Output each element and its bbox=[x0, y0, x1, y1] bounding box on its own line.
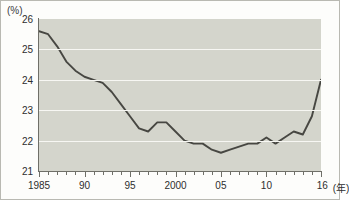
x-tick-label: 05 bbox=[215, 180, 226, 191]
x-tick-1994 bbox=[121, 172, 122, 175]
data-series-svg bbox=[39, 19, 321, 171]
gridline-22 bbox=[39, 141, 321, 142]
x-tick-1985 bbox=[39, 172, 40, 177]
x-tick-1992 bbox=[103, 172, 104, 175]
y-tick-label: 25 bbox=[22, 44, 33, 55]
x-tick-label: 16 bbox=[317, 180, 328, 191]
x-tick-2005 bbox=[221, 172, 222, 177]
x-tick-2002 bbox=[194, 172, 195, 175]
y-axis: 262524232221 bbox=[1, 19, 39, 171]
y-tick-label: 26 bbox=[22, 14, 33, 25]
x-tick-2000 bbox=[176, 172, 177, 177]
x-tick-label: 2000 bbox=[164, 180, 186, 191]
y-tick-label: 22 bbox=[22, 135, 33, 146]
x-tick-label: 90 bbox=[79, 180, 90, 191]
x-axis-unit-label: (年) bbox=[333, 180, 349, 195]
x-tick-2010 bbox=[266, 172, 267, 177]
x-tick-1998 bbox=[157, 172, 158, 175]
x-tick-2008 bbox=[248, 172, 249, 175]
x-tick-label: 95 bbox=[124, 180, 135, 191]
y-axis-line bbox=[38, 18, 39, 172]
gridline-25 bbox=[39, 49, 321, 50]
x-axis-labels: 198590952000051016(年) bbox=[1, 180, 341, 196]
x-tick-1996 bbox=[139, 172, 140, 175]
x-tick-2015 bbox=[312, 172, 313, 175]
x-tick-1988 bbox=[66, 172, 67, 175]
x-tick-1993 bbox=[112, 172, 113, 175]
x-tick-1997 bbox=[148, 172, 149, 175]
x-tick-label: 1985 bbox=[28, 180, 50, 191]
x-tick-2004 bbox=[212, 172, 213, 175]
x-tick-label: 10 bbox=[261, 180, 272, 191]
gridline-23 bbox=[39, 110, 321, 111]
x-tick-1990 bbox=[85, 172, 86, 177]
gridline-24 bbox=[39, 80, 321, 81]
x-axis-ticks bbox=[1, 172, 341, 180]
y-tick-label: 24 bbox=[22, 74, 33, 85]
x-tick-2013 bbox=[294, 172, 295, 175]
plot-area bbox=[39, 19, 321, 171]
x-tick-2003 bbox=[203, 172, 204, 175]
x-tick-1995 bbox=[130, 172, 131, 177]
y-tick-label: 23 bbox=[22, 105, 33, 116]
x-tick-2006 bbox=[230, 172, 231, 175]
x-tick-2007 bbox=[239, 172, 240, 175]
x-tick-1987 bbox=[57, 172, 58, 175]
x-tick-2012 bbox=[285, 172, 286, 175]
x-tick-1986 bbox=[48, 172, 49, 175]
x-tick-1991 bbox=[94, 172, 95, 175]
y-axis-unit-label: (%) bbox=[7, 5, 23, 16]
x-tick-1999 bbox=[166, 172, 167, 175]
x-tick-2016 bbox=[321, 172, 322, 177]
x-tick-2011 bbox=[276, 172, 277, 175]
x-tick-2009 bbox=[257, 172, 258, 175]
x-tick-2014 bbox=[303, 172, 304, 175]
x-tick-1989 bbox=[75, 172, 76, 175]
x-tick-2001 bbox=[185, 172, 186, 175]
